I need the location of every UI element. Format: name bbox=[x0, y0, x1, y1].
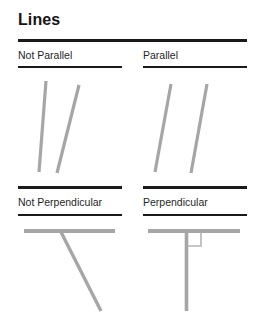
figure-perpendicular-svg bbox=[0, 0, 257, 328]
figure-perpendicular bbox=[0, 0, 257, 328]
right-angle-marker-icon bbox=[188, 233, 201, 246]
lines-worksheet-page: Lines Not Parallel Parallel Not Perpendi… bbox=[0, 0, 257, 328]
